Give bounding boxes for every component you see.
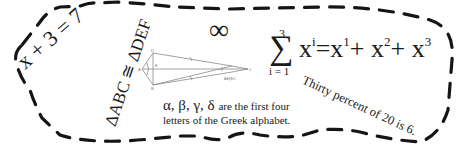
greek-letters-line1: α, β, γ, δ are the first four xyxy=(163,97,290,114)
kite-label-e: E xyxy=(155,63,158,68)
kite-diagram: A D B E C AE|EC xyxy=(138,48,253,90)
expansion-exponent: 3 xyxy=(425,34,432,49)
kite-label-a: A xyxy=(138,67,141,72)
expansion-base: x xyxy=(371,34,384,63)
kite-label-d: D xyxy=(151,48,154,53)
greek-letters: α, β, γ, δ xyxy=(163,97,215,113)
expansion-base: x xyxy=(330,34,343,63)
plus-sign: + xyxy=(390,34,405,63)
sigma-symbol: ∑ xyxy=(269,31,293,65)
greek-letters-line2: letters of the Greek alphabet. xyxy=(163,114,290,126)
infinity-symbol: ∞ xyxy=(209,16,229,44)
summation-equation: xi=x1+ x2+ x3 xyxy=(299,35,431,62)
math-collage: x + 3 = 7 ΔABC ≅ ΔDEF ∞ A D B E C AE|EC xyxy=(0,0,462,148)
kite-caption: AE|EC xyxy=(224,76,236,81)
kite-label-b: B xyxy=(151,86,154,90)
equals-sign: = xyxy=(316,34,331,63)
kite-label-c: C xyxy=(249,67,252,72)
sigma-lower-limit: i = 1 xyxy=(269,65,289,77)
expansion-base: x xyxy=(412,34,425,63)
greek-line1-text: are the first four xyxy=(218,100,289,112)
term-base: x xyxy=(299,34,312,63)
plus-sign: + xyxy=(350,34,365,63)
